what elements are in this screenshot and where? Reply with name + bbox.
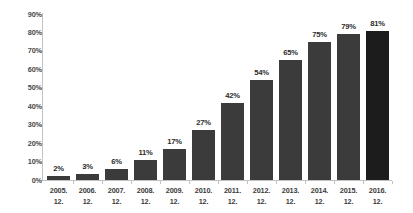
bar [366,31,389,180]
bar [279,60,302,180]
x-axis-tick-mark [305,181,306,184]
y-axis-tick-label: 60% [8,66,42,73]
bar [76,174,99,180]
x-axis-tick-mark [73,181,74,184]
bar-value-label: 17% [157,138,192,146]
bar [134,160,157,180]
y-axis-tick-label: 40% [8,103,42,110]
x-axis-tick-mark [102,181,103,184]
category-label-year: 2016. [358,186,397,197]
x-axis-tick-mark [131,181,132,184]
y-axis-tick-label: 90% [8,11,42,18]
x-axis-tick-mark [392,181,393,184]
x-axis-tick-mark [247,181,248,184]
y-axis-tick-label: 30% [8,121,42,128]
category-label-month: 12. [358,197,397,208]
x-axis-tick-mark [334,181,335,184]
y-axis-line [42,13,43,181]
bar-value-label: 42% [215,92,250,100]
bar-value-label: 81% [360,20,395,28]
bar [337,34,360,180]
bar [250,80,273,180]
y-axis-tick-label: 80% [8,29,42,36]
y-axis-tick-label: 50% [8,84,42,91]
bar-value-label: 65% [273,49,308,57]
bar [221,103,244,180]
y-axis-tick-label: 20% [8,140,42,147]
x-axis-tick-mark [276,181,277,184]
bar-value-label: 6% [99,158,134,166]
bar-chart: 0%10%20%30%40%50%60%70%80%90% 2%3%6%11%1… [0,0,413,213]
y-axis-tick-label: 0% [8,177,42,184]
x-axis-baseline [42,180,392,181]
y-axis-tick-label: 70% [8,47,42,54]
bar-value-label: 54% [244,69,279,77]
bar [105,169,128,180]
y-axis-tick-label: 10% [8,158,42,165]
x-axis-tick-mark [160,181,161,184]
bar-value-label: 11% [128,149,163,157]
x-axis-tick-mark [218,181,219,184]
bar [192,130,215,180]
bar [163,149,186,180]
bar [47,176,70,180]
bar [308,42,331,180]
x-axis-tick-mark [189,181,190,184]
bar-value-label: 75% [302,31,337,39]
x-axis-tick-mark [363,181,364,184]
bar-value-label: 27% [186,119,221,127]
x-axis-category-label: 2016.12. [358,186,397,207]
